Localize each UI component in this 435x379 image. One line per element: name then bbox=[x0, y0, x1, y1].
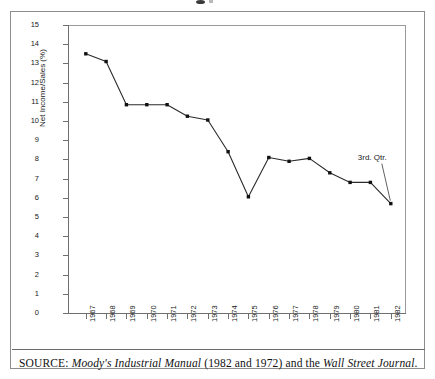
source-publication-1: Moody's Industrial Manual bbox=[72, 357, 202, 369]
chart-area: Net Income/Sales (%) 0123456789101112131… bbox=[11, 12, 426, 339]
data-point-marker bbox=[287, 160, 290, 163]
data-point-marker bbox=[145, 103, 148, 106]
data-point-marker bbox=[165, 103, 168, 106]
data-point-marker bbox=[308, 157, 311, 160]
source-divider bbox=[12, 349, 425, 350]
data-point-marker bbox=[226, 150, 229, 153]
data-point-marker bbox=[125, 103, 128, 106]
data-series-layer bbox=[11, 12, 426, 339]
data-point-marker bbox=[206, 118, 209, 121]
data-point-marker bbox=[186, 115, 189, 118]
page-bleed-mark bbox=[196, 0, 205, 4]
data-point-marker bbox=[328, 171, 331, 174]
source-prefix: SOURCE: bbox=[19, 357, 69, 369]
data-point-marker bbox=[369, 181, 372, 184]
source-suffix: . bbox=[415, 357, 418, 369]
figure-page: Net Income/Sales (%) 0123456789101112131… bbox=[0, 0, 435, 379]
data-point-marker bbox=[104, 60, 107, 63]
source-publication-2: Wall Street Journal bbox=[323, 357, 414, 369]
source-middle-text: (1982 and 1972) and the bbox=[204, 357, 320, 369]
data-point-marker bbox=[247, 195, 250, 198]
page-bleed-mark-secondary bbox=[209, 0, 213, 3]
source-note: SOURCE: Moody's Industrial Manual (1982 … bbox=[19, 357, 419, 369]
data-point-marker bbox=[267, 156, 270, 159]
figure-box: Net Income/Sales (%) 0123456789101112131… bbox=[10, 11, 425, 369]
series-line bbox=[86, 54, 391, 204]
data-point-marker bbox=[84, 52, 87, 55]
data-point-marker bbox=[389, 202, 392, 205]
series-markers bbox=[84, 52, 392, 205]
data-point-marker bbox=[348, 181, 351, 184]
annotation-label-3rd-qtr: 3rd. Qtr. bbox=[358, 153, 387, 162]
